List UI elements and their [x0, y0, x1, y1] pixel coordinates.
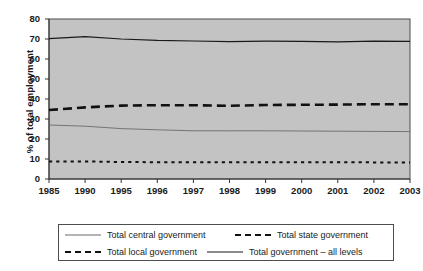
chart-figure: % of total employment 01020304050607080 …	[0, 0, 423, 271]
chart-legend: Total central governmentTotal state gove…	[58, 224, 394, 261]
legend-entry[interactable]: Total government – all levels	[207, 244, 363, 260]
legend-entry[interactable]: Total central government	[65, 227, 206, 243]
plot-background	[49, 19, 410, 179]
legend-label: Total central government	[107, 230, 206, 240]
legend-swatch	[207, 247, 243, 257]
legend-label: Total local government	[107, 247, 197, 257]
legend-entry[interactable]: Total state government	[235, 227, 368, 243]
legend-swatch	[65, 247, 101, 257]
legend-entry[interactable]: Total local government	[65, 244, 197, 260]
legend-label: Total government – all levels	[249, 247, 363, 257]
legend-swatch	[235, 230, 271, 240]
legend-swatch	[65, 230, 101, 240]
legend-label: Total state government	[277, 230, 368, 240]
